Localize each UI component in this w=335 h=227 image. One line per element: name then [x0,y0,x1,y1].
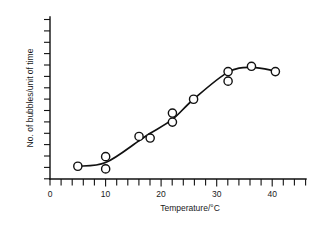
x-axis-title: Temperature/°C [160,203,220,213]
x-tick-label: 30 [212,189,222,199]
x-axis-ticks [50,179,306,187]
data-point [271,68,279,76]
x-tick-label: 10 [101,189,111,199]
y-axis-ticks [44,20,50,179]
x-tick-label: 40 [267,189,277,199]
data-point [189,95,197,103]
x-tick-label: 20 [156,189,166,199]
data-point [146,134,154,142]
chart-figure: 0 10 20 30 40 Temperature/°C No. of bubb… [0,0,335,227]
data-point-group [74,62,280,173]
data-point [135,132,143,140]
data-point [102,165,110,173]
data-point [168,118,176,126]
y-axis-title: No. of bubbles/unit of time [25,48,35,147]
data-point [224,77,232,85]
data-point [102,153,110,161]
x-tick-label: 0 [48,189,53,199]
data-point [247,62,255,70]
x-axis-tick-labels: 0 10 20 30 40 [48,189,278,199]
data-point [74,162,82,170]
scatter-plot-canvas: 0 10 20 30 40 Temperature/°C No. of bubb… [0,0,335,227]
data-point [224,68,232,76]
fitted-curve [78,67,276,166]
data-point [168,109,176,117]
